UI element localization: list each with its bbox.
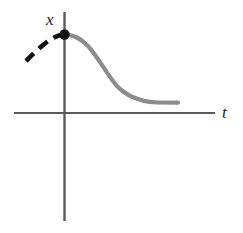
plot-svg: x t	[0, 0, 243, 233]
y-axis-label: x	[45, 10, 54, 29]
past-extrapolation-curve	[26, 35, 64, 61]
initial-condition-point	[59, 29, 69, 39]
x-axis-label: t	[222, 103, 228, 122]
chart-figure: x t	[0, 0, 243, 233]
solution-decay-curve	[64, 35, 178, 103]
